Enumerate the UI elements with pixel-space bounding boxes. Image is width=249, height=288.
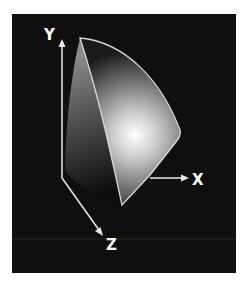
x-axis-arrowhead-icon — [181, 175, 189, 182]
y-axis-arrowhead-icon — [59, 39, 66, 47]
y-axis-label: Y — [44, 28, 55, 43]
z-axis-label: Z — [106, 238, 117, 253]
x-axis-label: X — [192, 173, 204, 188]
xyz-color-solid-diagram — [0, 0, 249, 288]
z-axis-arrowhead-icon — [95, 227, 103, 236]
